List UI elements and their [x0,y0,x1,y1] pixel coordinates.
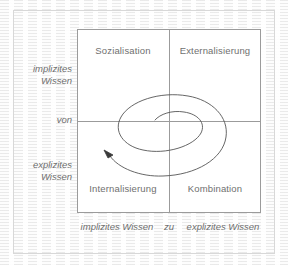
x-axis-label-explicit-knowledge: explizites Wissen [182,221,264,232]
y-axis-label-explicit-line1: explizites [33,159,72,170]
y-axis-label-implicit-line2: Wissen [41,75,72,86]
y-axis-label-explicit-line2: Wissen [41,171,72,182]
x-axis-caption-zu: zu [156,221,182,232]
quadrant-label-combination: Kombination [169,183,261,194]
y-axis-caption-von: von [8,114,72,125]
seci-knowledge-spiral-figure: Sozialisation Externalisierung Internali… [0,0,288,265]
quadrant-label-internalization: Internalisierung [77,183,169,194]
y-axis-label-implicit-knowledge: implizites Wissen [8,63,72,86]
quadrant-label-socialization: Sozialisation [77,45,169,56]
quadrant-label-externalization: Externalisierung [169,45,261,56]
x-axis-label-implicit-knowledge: implizites Wissen [78,221,156,232]
y-axis-label-explicit-knowledge: explizites Wissen [8,159,72,182]
y-axis-label-implicit-line1: implizites [33,63,72,74]
horizontal-axis-line [77,121,261,122]
